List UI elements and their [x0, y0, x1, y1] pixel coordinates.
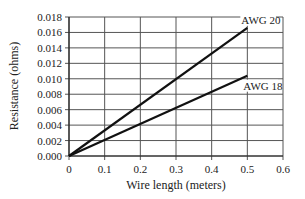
x-tick-label: 0.6 [276, 163, 290, 175]
y-tick-label: 0.016 [37, 26, 62, 38]
series-label: AWG 18 [243, 80, 283, 92]
x-axis-label: Wire length (meters) [126, 178, 225, 192]
y-tick-label: 0.004 [37, 119, 62, 131]
series-labels: AWG 20AWG 18 [240, 14, 283, 92]
y-tick-label: 0.014 [37, 42, 62, 54]
x-tick-label: 0.3 [169, 163, 183, 175]
y-tick-label: 0.018 [37, 11, 62, 23]
x-tick-label: 0.5 [240, 163, 254, 175]
series-line [69, 28, 247, 156]
x-tick-label: 0.2 [133, 163, 147, 175]
series-label: AWG 20 [241, 14, 281, 26]
series-line [69, 76, 247, 156]
x-tick-label: 0.4 [205, 163, 219, 175]
y-tick-label: 0.000 [37, 150, 62, 162]
x-tick-label: 0 [66, 163, 72, 175]
y-tick-label: 0.010 [37, 73, 62, 85]
y-tick-label: 0.008 [37, 88, 62, 100]
data-series [69, 28, 247, 156]
y-tick-label: 0.006 [37, 104, 62, 116]
y-tick-label: 0.012 [37, 57, 62, 69]
y-tick-label: 0.002 [37, 135, 62, 147]
x-tick-label: 0.1 [98, 163, 112, 175]
y-axis-label: Resistance (ohms) [7, 42, 21, 130]
resistance-vs-length-chart: 0.0000.0020.0040.0060.0080.0100.0120.014… [0, 0, 305, 199]
